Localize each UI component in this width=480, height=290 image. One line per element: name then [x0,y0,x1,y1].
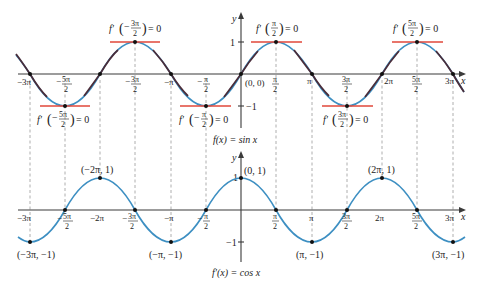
tick-negpi2-minus: − [197,76,202,86]
tick-pi: π [307,76,312,86]
tick-negpi: −π [164,77,174,87]
svg-text:3π: 3π [131,19,139,28]
origin-label: (0, 0) [245,78,265,88]
top-x-tick-labels: −3π − 5π 2 − 3π 2 −π − π 2 (0, 0) π 2 π … [17,75,455,94]
svg-text:): ) [419,21,424,37]
svg-text:−: − [124,21,130,32]
bottom-x-tick-labels: −3π − 5π 2 −2π − 3π 2 −π − π 2 π 2 π 3π … [17,212,455,231]
point-pi-min [310,240,314,244]
top-graph-sin: y x 1 −1 [16,12,466,146]
btick-neg5pi2-num: 5π [63,212,71,221]
point-negpi2 [204,104,208,108]
btick-neg5pi2-minus: − [57,213,62,223]
bottom-ytick-label-neg1: −1 [226,237,237,248]
top-x-axis-label: x [460,75,466,86]
btick-neg3pi2-num: 3π [128,212,136,221]
label-fprime-pi2: f′ ( π 2 ) = 0 [256,19,298,38]
svg-text:): ) [349,112,354,128]
point-origin [239,72,243,76]
btick-2pi: 2π [375,213,385,223]
svg-text:= 0: = 0 [425,23,438,34]
top-ytick-label-1: 1 [230,37,235,48]
point-neg3pi2 [133,40,137,44]
svg-text:f′: f′ [323,114,329,125]
label-pi: (π, −1) [296,249,323,261]
tick-neg3pi2-den: 2 [133,85,137,94]
svg-text:): ) [142,21,147,37]
btick-3pi2-num: 3π [342,212,350,221]
point-negpi [169,72,173,76]
svg-text:5π: 5π [408,19,416,28]
svg-text:2: 2 [133,29,137,38]
tick-3pi: 3π [445,76,455,86]
tick-2pi: 2π [384,76,394,86]
point-2pi-max [380,176,384,180]
bottom-caption: f′(x) = cos x [212,267,261,279]
bottom-x-axis-label: x [460,211,466,222]
point-5pi2 [415,40,419,44]
btick-pi: π [309,213,314,223]
svg-text:= 0: = 0 [285,23,298,34]
tick-5pi2-num: 5π [412,75,420,84]
top-y-arrow-icon [238,12,244,19]
svg-text:f′: f′ [37,114,43,125]
btick-neg5pi2-den: 2 [65,222,69,231]
svg-text:−: − [194,112,200,123]
tick-3pi2-num: 3π [342,75,350,84]
btick-neg3pi2-minus: − [122,213,127,223]
svg-text:f′: f′ [109,23,115,34]
svg-text:): ) [279,21,284,37]
point-neg3pi-min [28,240,32,244]
tick-5pi2-den: 2 [414,85,418,94]
svg-text:2: 2 [340,120,344,129]
svg-text:3π: 3π [338,110,346,119]
btick-negpi2-minus: − [197,213,202,223]
tick-neg3pi: −3π [17,77,32,87]
label-fprime-3pi2: f′ ( 3π 2 ) = 0 [323,110,368,129]
tick-negpi2-num: π [204,75,208,84]
svg-text:2: 2 [61,120,65,129]
btick-neg3pi: −3π [17,213,32,223]
bottom-y-axis-label: y [231,152,237,163]
label-fprime-neg5pi2: f′ ( − 5π 2 ) = 0 [37,110,89,129]
svg-text:(: ( [265,21,270,37]
svg-text:= 0: = 0 [215,114,228,125]
label-n2pi: (−2π, 1) [81,164,113,176]
btick-neg2pi: −2π [90,213,105,223]
tick-pi2-den: 2 [273,85,277,94]
tick-neg5pi2-num: 5π [62,75,70,84]
bottom-y-arrow-icon [238,151,244,158]
top-ytick-label-neg1: −1 [246,101,257,112]
point-3pi-min [451,240,455,244]
point-neg2pi-max [98,176,102,180]
sin-cos-derivative-figure: y x 1 −1 [0,0,480,290]
point-negpi-min [169,240,173,244]
svg-text:): ) [209,112,214,128]
bottom-ytick-label-1: 1 [233,172,238,183]
svg-text:2: 2 [410,29,414,38]
point-3pi2 [345,104,349,108]
tick-neg3pi2-minus: − [125,76,130,86]
label-fprime-neg3pi2: f′ ( − 3π 2 ) = 0 [109,19,161,38]
btick-5pi2-num: 5π [412,212,420,221]
top-y-axis-label: y [231,13,237,24]
svg-text:f′: f′ [179,114,185,125]
btick-5pi2-den: 2 [414,222,418,231]
label-2pi: (2π, 1) [368,164,395,176]
btick-negpi: −π [164,213,174,223]
btick-negpi2-num: π [204,212,208,221]
svg-text:= 0: = 0 [148,23,161,34]
label-fprime-5pi2: f′ ( 5π 2 ) = 0 [393,19,438,38]
svg-text:(: ( [332,112,337,128]
tick-neg5pi2-den: 2 [64,85,68,94]
tick-pi2-num: π [273,75,277,84]
svg-text:2: 2 [202,120,206,129]
point-neg5pi2 [63,104,67,108]
btick-3pi: 3π [445,213,455,223]
svg-text:= 0: = 0 [355,114,368,125]
btick-neg3pi2-den: 2 [130,222,134,231]
tick-3pi2-den: 2 [344,85,348,94]
svg-text:−: − [52,112,58,123]
svg-text:π: π [202,110,206,119]
label-npi: (−π, −1) [149,249,182,261]
